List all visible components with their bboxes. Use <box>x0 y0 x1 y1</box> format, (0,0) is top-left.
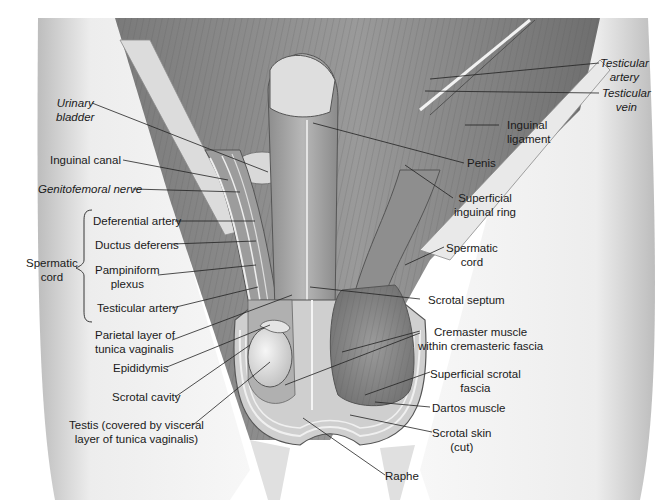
label-urinary-bladder: Urinary bladder <box>56 96 94 124</box>
label-testicular-artery-right: Testicular artery <box>600 56 649 84</box>
label-inguinal-ligament: Inguinal ligament <box>507 118 550 146</box>
label-scrotal-skin: Scrotal skin (cut) <box>432 426 491 454</box>
label-cremaster-muscle: Cremaster muscle within cremasteric fasc… <box>418 325 543 353</box>
label-deferential-artery: Deferential artery <box>93 214 181 228</box>
label-penis: Penis <box>467 156 496 170</box>
label-ductus-deferens: Ductus deferens <box>95 238 179 252</box>
label-spermatic-cord-group: Spermatic cord <box>26 256 78 284</box>
label-testicular-vein: Testicular vein <box>602 86 651 114</box>
label-epididymis: Epididymis <box>113 361 169 375</box>
label-testis: Testis (covered by visceral layer of tun… <box>69 418 204 446</box>
label-superficial-inguinal-ring: Superficial inguinal ring <box>454 191 516 219</box>
label-scrotal-septum: Scrotal septum <box>428 293 505 307</box>
label-dartos-muscle: Dartos muscle <box>432 401 506 415</box>
label-superficial-scrotal-fascia: Superficial scrotal fascia <box>430 367 521 395</box>
label-spermatic-cord-right: Spermatic cord <box>446 241 498 269</box>
label-inguinal-canal: Inguinal canal <box>50 153 121 167</box>
label-scrotal-cavity: Scrotal cavity <box>112 390 180 404</box>
label-pampiniform-plexus: Pampiniform plexus <box>95 263 160 291</box>
label-parietal-layer-tunica-vaginalis: Parietal layer of tunica vaginalis <box>95 328 175 356</box>
label-raphe: Raphe <box>385 469 419 483</box>
anatomy-diagram: Urinary bladder Inguinal canal Genitofem… <box>0 0 658 500</box>
label-genitofemoral-nerve: Genitofemoral nerve <box>38 182 142 196</box>
testis-shape <box>248 327 292 387</box>
label-testicular-artery-left: Testicular artery <box>97 301 178 315</box>
